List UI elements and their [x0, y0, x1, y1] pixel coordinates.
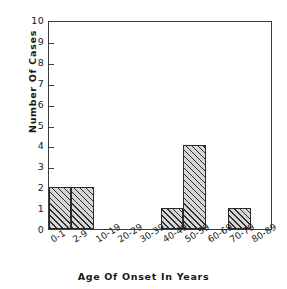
- y-tick-label-7: 7: [26, 79, 44, 89]
- y-tick-label-1: 1: [26, 204, 44, 214]
- y-tick-label-6: 6: [26, 100, 44, 110]
- y-tick-label-9: 9: [26, 37, 44, 47]
- x-axis-tick-labels: 0-12-910-1920-2930-3940-4950-5960-6970-7…: [48, 230, 272, 270]
- y-tick-label-8: 8: [26, 58, 44, 68]
- bar-0-1: [49, 187, 71, 229]
- bar-series: [49, 22, 271, 229]
- y-tick-label-4: 4: [26, 142, 44, 152]
- y-tick-label-3: 3: [26, 163, 44, 173]
- x-tick-label-0-1: 0-1: [49, 228, 67, 245]
- y-tick-label-2: 2: [26, 183, 44, 193]
- y-tick-label-5: 5: [26, 121, 44, 131]
- x-tick-label-2-9: 2-9: [71, 228, 89, 245]
- y-tick-label-0: 0: [26, 225, 44, 235]
- y-axis-tick-labels: 012345678910: [26, 21, 44, 230]
- plot-area: [48, 21, 272, 230]
- bar-2-9: [71, 187, 93, 229]
- y-tick-label-10: 10: [26, 16, 44, 26]
- bar-50-59: [183, 145, 205, 229]
- x-axis-title: Age Of Onset In Years: [0, 271, 287, 282]
- bar-chart-figure: Number Of Cases 012345678910 0-12-910-19…: [0, 0, 287, 289]
- plot-inner: [49, 22, 271, 229]
